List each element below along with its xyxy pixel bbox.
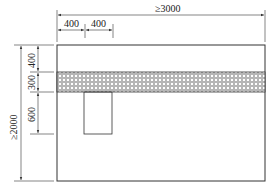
hatched-band xyxy=(57,72,265,92)
inner-rect xyxy=(84,92,112,134)
band-height-label: 300 xyxy=(26,75,37,90)
outer-rect xyxy=(57,45,265,181)
layout-drawing: ≥3000 400 400 ≥2000 400 300 600 xyxy=(0,0,273,190)
top-gap-label: 400 xyxy=(26,53,37,68)
offset-2-label: 400 xyxy=(91,18,106,29)
offset-1-label: 400 xyxy=(64,18,79,29)
lower-rect-height-label: 600 xyxy=(26,107,37,122)
total-height-label: ≥2000 xyxy=(8,115,19,141)
total-width-label: ≥3000 xyxy=(155,3,181,14)
